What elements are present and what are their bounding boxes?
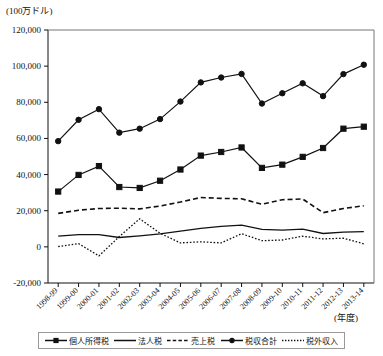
svg-text:2003-04: 2003-04 (136, 286, 161, 311)
svg-text:120,000: 120,000 (12, 25, 42, 35)
data-point-marker (341, 71, 346, 76)
svg-text:1999-00: 1999-00 (55, 286, 80, 311)
svg-text:-20,000: -20,000 (13, 278, 41, 288)
legend-swatch-icon (282, 336, 304, 345)
data-point-marker (259, 165, 264, 170)
svg-text:80,000: 80,000 (16, 97, 41, 107)
chart-plot-area: 120,000100,00080,00060,00040,00020,0000-… (0, 0, 383, 356)
legend-label: 税外収入 (306, 335, 338, 346)
series-line-税外収入 (58, 219, 364, 256)
data-point-marker (280, 91, 285, 96)
legend-label: 売上税 (191, 335, 215, 346)
chart-container: (100万ドル) 120,000100,00080,00060,00040,00… (0, 0, 383, 356)
legend-label: 法人税 (138, 335, 162, 346)
data-point-marker (117, 184, 122, 189)
data-point-marker (320, 145, 325, 150)
svg-text:2002-03: 2002-03 (116, 286, 141, 311)
data-point-marker (239, 71, 244, 76)
svg-text:100,000: 100,000 (12, 61, 42, 71)
series-line-法人税 (58, 225, 364, 237)
data-point-marker (300, 81, 305, 86)
data-point-marker (76, 172, 81, 177)
svg-text:0: 0 (37, 242, 42, 252)
legend-swatch-icon (45, 336, 67, 345)
series-line-税収合計 (58, 65, 364, 141)
svg-text:2006-07: 2006-07 (197, 286, 222, 311)
data-point-marker (320, 93, 325, 98)
plot-frame (48, 30, 374, 283)
data-point-marker (76, 117, 81, 122)
legend-swatch-icon (114, 336, 136, 345)
series-line-個人所得税 (58, 127, 364, 192)
svg-text:2005-06: 2005-06 (177, 286, 202, 311)
data-series-group (55, 62, 366, 256)
svg-text:2008-09: 2008-09 (238, 286, 263, 311)
chart-legend: 個人所得税法人税売上税税収合計税外収入 (38, 332, 345, 349)
legend-swatch-icon (167, 336, 189, 345)
svg-text:2004-05: 2004-05 (157, 286, 182, 311)
data-point-marker (56, 189, 61, 194)
data-point-marker (157, 116, 162, 121)
data-point-marker (361, 124, 366, 129)
data-point-marker (117, 130, 122, 135)
svg-text:2009-10: 2009-10 (259, 286, 284, 311)
series-line-売上税 (58, 198, 364, 214)
data-point-marker (219, 149, 224, 154)
svg-text:2010-11: 2010-11 (279, 286, 304, 311)
x-axis-ticks: 1998-991999-002000-012001-022002-032003-… (34, 283, 365, 311)
x-axis-unit-label: (年度) (334, 311, 358, 324)
legend-label: 税収合計 (245, 335, 277, 346)
svg-text:2012-13: 2012-13 (320, 286, 345, 311)
data-point-marker (55, 138, 60, 143)
data-point-marker (198, 80, 203, 85)
legend-swatch-icon (221, 336, 243, 345)
svg-text:60,000: 60,000 (16, 133, 41, 143)
data-point-marker (96, 163, 101, 168)
legend-item-個人所得税[interactable]: 個人所得税 (45, 335, 109, 346)
data-point-marker (96, 106, 101, 111)
data-point-marker (259, 101, 264, 106)
data-point-marker (178, 167, 183, 172)
data-point-marker (137, 126, 142, 131)
legend-item-税外収入[interactable]: 税外収入 (282, 335, 338, 346)
svg-text:40,000: 40,000 (16, 170, 41, 180)
legend-item-税収合計[interactable]: 税収合計 (221, 335, 277, 346)
svg-text:2007-08: 2007-08 (218, 286, 243, 311)
data-point-marker (300, 154, 305, 159)
svg-text:1998-99: 1998-99 (34, 286, 59, 311)
svg-text:2013-14: 2013-14 (340, 286, 365, 311)
data-point-marker (280, 162, 285, 167)
data-point-marker (341, 126, 346, 131)
legend-label: 個人所得税 (69, 335, 109, 346)
svg-text:20,000: 20,000 (16, 206, 41, 216)
svg-text:2000-01: 2000-01 (75, 286, 100, 311)
legend-item-売上税[interactable]: 売上税 (167, 335, 215, 346)
data-point-marker (218, 75, 223, 80)
data-point-marker (198, 153, 203, 158)
legend-item-法人税[interactable]: 法人税 (114, 335, 162, 346)
data-point-marker (157, 178, 162, 183)
data-point-marker (361, 62, 366, 67)
data-point-marker (239, 145, 244, 150)
svg-text:2001-02: 2001-02 (96, 286, 121, 311)
data-point-marker (137, 185, 142, 190)
data-point-marker (178, 99, 183, 104)
y-axis-ticks: 120,000100,00080,00060,00040,00020,0000-… (12, 25, 48, 288)
